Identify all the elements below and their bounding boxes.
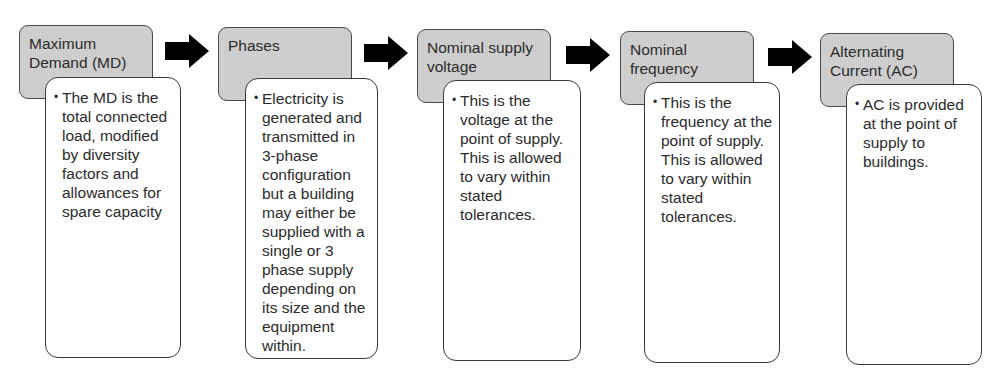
bullet-icon: •: [54, 88, 62, 107]
step-description: AC is provided at the point of supply to…: [863, 95, 975, 171]
step-title: Phases: [228, 37, 280, 54]
step-description-card: • AC is provided at the point of supply …: [846, 84, 982, 365]
step-title: Nominal supply voltage: [427, 39, 533, 75]
bullet-icon: •: [855, 95, 863, 114]
bullet-icon: •: [254, 89, 262, 108]
step-title: Alternating Current (AC): [830, 43, 918, 79]
bullet-icon: •: [653, 93, 661, 112]
step-description: The MD is the total connected load, modi…: [62, 88, 174, 221]
bullet-item: • Electricity is generated and transmitt…: [254, 89, 371, 355]
step-description: This is the voltage at the point of supp…: [460, 91, 574, 224]
step-title: Nominal frequency: [630, 41, 698, 77]
bullet-item: • This is the frequency at the point of …: [653, 93, 773, 226]
step-description-card: • This is the frequency at the point of …: [644, 82, 780, 363]
right-arrow-icon: [364, 36, 408, 70]
step-description: This is the frequency at the point of su…: [661, 93, 773, 226]
right-arrow-icon: [566, 38, 610, 72]
bullet-icon: •: [452, 91, 460, 110]
step-description-card: • Electricity is generated and transmitt…: [245, 78, 378, 359]
right-arrow-icon: [165, 34, 209, 68]
step-title: Maximum Demand (MD): [29, 35, 126, 71]
step-description-card: • The MD is the total connected load, mo…: [45, 77, 181, 358]
bullet-item: • This is the voltage at the point of su…: [452, 91, 574, 224]
bullet-item: • The MD is the total connected load, mo…: [54, 88, 174, 221]
step-description: Electricity is generated and transmitted…: [262, 89, 371, 355]
step-description-card: • This is the voltage at the point of su…: [443, 80, 581, 361]
bullet-item: • AC is provided at the point of supply …: [855, 95, 975, 171]
right-arrow-icon: [768, 40, 812, 74]
